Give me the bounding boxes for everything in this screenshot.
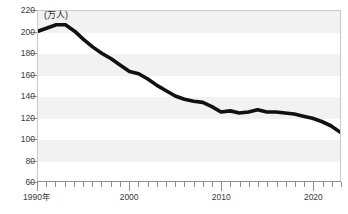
- y-axis-unit-label: (万人): [44, 8, 68, 21]
- x-axis-major-tick: [313, 182, 314, 191]
- y-axis-tick-label: 80: [26, 156, 35, 165]
- x-axis-tick-label: 2010: [212, 193, 231, 202]
- x-axis-minor-tick: [111, 182, 112, 187]
- y-axis-tick-label: 140: [21, 92, 35, 101]
- x-axis-major-tick: [221, 182, 222, 191]
- x-axis-tick-label: 2000: [120, 193, 139, 202]
- x-axis-tick-label: 1990年: [23, 193, 51, 202]
- x-axis-minor-tick: [267, 182, 268, 187]
- x-axis-minor-tick: [120, 182, 121, 187]
- x-axis-minor-tick: [286, 182, 287, 187]
- x-axis-minor-tick: [166, 182, 167, 187]
- x-axis-minor-tick: [240, 182, 241, 187]
- x-axis-minor-tick: [74, 182, 75, 187]
- x-axis-minor-tick: [295, 182, 296, 187]
- x-axis-minor-tick: [304, 182, 305, 187]
- x-axis-minor-tick: [101, 182, 102, 187]
- y-axis-tick-label: 200: [21, 27, 35, 36]
- y-axis-tick-label: 60: [26, 178, 35, 187]
- x-axis-minor-tick: [65, 182, 66, 187]
- y-axis-tick-label: 120: [21, 113, 35, 122]
- x-axis-minor-tick: [341, 182, 342, 187]
- y-axis-tick-label: 160: [21, 70, 35, 79]
- x-axis-minor-tick: [212, 182, 213, 187]
- x-axis-minor-tick: [46, 182, 47, 187]
- x-axis-minor-tick: [55, 182, 56, 187]
- y-axis-tick-label: 100: [21, 135, 35, 144]
- y-axis-tick-label: 220: [21, 6, 35, 15]
- x-axis-minor-tick: [83, 182, 84, 187]
- x-axis-minor-tick: [249, 182, 250, 187]
- x-axis-minor-tick: [203, 182, 204, 187]
- data-line: [38, 25, 340, 132]
- x-axis-major-tick: [129, 182, 130, 191]
- x-axis-minor-tick: [277, 182, 278, 187]
- y-axis-tick-label: 180: [21, 49, 35, 58]
- x-axis-minor-tick: [157, 182, 158, 187]
- x-axis-minor-tick: [194, 182, 195, 187]
- x-axis-minor-tick: [323, 182, 324, 187]
- x-axis-minor-tick: [184, 182, 185, 187]
- x-axis-minor-tick: [92, 182, 93, 187]
- x-axis-minor-tick: [258, 182, 259, 187]
- x-axis-minor-tick: [138, 182, 139, 187]
- x-axis-minor-tick: [332, 182, 333, 187]
- x-axis-major-tick: [37, 182, 38, 191]
- line-chart: 6080100120140160180200220 (万人) 1990年2000…: [0, 0, 348, 214]
- x-axis-minor-tick: [230, 182, 231, 187]
- plot-area: [37, 10, 341, 182]
- x-axis-minor-tick: [148, 182, 149, 187]
- x-axis-tick-label: 2020: [304, 193, 323, 202]
- data-line-svg: [38, 11, 340, 181]
- x-axis-minor-tick: [175, 182, 176, 187]
